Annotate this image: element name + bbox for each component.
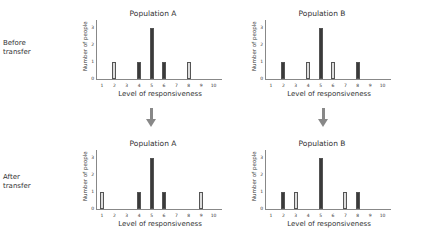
x-tick-label: 7 [172,83,180,88]
chart-title: Population B [247,9,397,18]
x-tick-label: 6 [160,83,168,88]
x-tick-label: 1 [267,83,275,88]
bar-light-4 [306,62,310,79]
chart-before-population-a: Population A012312345678910Level of resp… [78,9,228,109]
bar-dark-8 [356,192,360,209]
y-tick-label: 3 [258,25,263,30]
bar-light-1 [100,192,104,209]
x-tick-label: 1 [267,213,275,218]
x-axis-line [96,79,222,80]
x-tick-label: 5 [148,83,156,88]
x-tick-label: 3 [292,213,300,218]
x-tick-label: 10 [379,213,387,218]
x-tick-label: 3 [292,83,300,88]
row-label-before-line1: Before [3,39,31,48]
bar-dark-5 [150,158,154,209]
y-tick-label: 2 [258,42,263,47]
y-tick-label: 3 [258,155,263,160]
y-axis-line [96,20,97,80]
x-tick-label: 9 [197,213,205,218]
y-tick-label: 0 [89,206,94,211]
x-axis-label: Level of responsiveness [259,90,399,98]
y-tick-label: 3 [89,25,94,30]
bar-dark-4 [137,62,141,79]
x-tick-label: 2 [110,83,118,88]
x-tick-label: 10 [210,83,218,88]
y-axis-line [265,20,266,80]
x-tick-label: 2 [279,213,287,218]
x-tick-label: 5 [317,83,325,88]
x-tick-label: 6 [329,213,337,218]
bar-light-2 [112,62,116,79]
plot-area: 012312345678910 [96,150,222,210]
y-axis-label: Number of people [82,21,88,71]
x-tick-label: 5 [317,213,325,218]
y-tick-label: 2 [89,42,94,47]
y-tick-label: 1 [258,189,263,194]
x-axis-label: Level of responsiveness [90,90,230,98]
chart-before-population-b: Population B012312345678910Level of resp… [247,9,397,109]
bar-dark-2 [281,62,285,79]
y-axis-line [265,150,266,210]
x-axis-line [96,209,222,210]
x-tick-label: 10 [379,83,387,88]
plot-area: 012312345678910 [265,150,391,210]
bar-light-9 [199,192,203,209]
x-tick-label: 8 [185,213,193,218]
bar-light-7 [343,192,347,209]
y-axis-label: Number of people [251,151,257,201]
y-tick-label: 3 [89,155,94,160]
x-axis-label: Level of responsiveness [259,220,399,228]
row-label-after-line2: transfer [3,182,31,191]
y-tick-label: 0 [89,76,94,81]
bar-dark-8 [356,62,360,79]
x-tick-label: 9 [366,83,374,88]
chart-title: Population B [247,139,397,148]
x-tick-label: 4 [135,83,143,88]
row-label-before: Before transfer [3,39,31,57]
bar-dark-4 [137,192,141,209]
bar-dark-2 [281,192,285,209]
x-tick-label: 4 [304,83,312,88]
x-tick-label: 2 [110,213,118,218]
x-axis-line [265,79,391,80]
x-tick-label: 7 [341,213,349,218]
x-tick-label: 2 [279,83,287,88]
y-axis-label: Number of people [82,151,88,201]
bar-dark-5 [319,158,323,209]
x-tick-label: 4 [304,213,312,218]
bar-dark-5 [319,28,323,79]
y-tick-label: 0 [258,206,263,211]
bar-light-6 [331,62,335,79]
bar-light-8 [187,62,191,79]
chart-title: Population A [78,139,228,148]
bar-light-3 [294,192,298,209]
y-axis-label: Number of people [251,21,257,71]
chart-after-population-a: Population A012312345678910Level of resp… [78,139,228,239]
x-tick-label: 9 [197,83,205,88]
y-tick-label: 2 [258,172,263,177]
x-tick-label: 10 [210,213,218,218]
x-tick-label: 9 [366,213,374,218]
chart-title: Population A [78,9,228,18]
x-tick-label: 3 [123,83,131,88]
bar-dark-5 [150,28,154,79]
y-tick-label: 2 [89,172,94,177]
x-tick-label: 6 [160,213,168,218]
x-tick-label: 1 [98,213,106,218]
y-tick-label: 1 [258,59,263,64]
x-tick-label: 7 [341,83,349,88]
row-label-after-line1: After [3,173,31,182]
row-label-before-line2: transfer [3,48,31,57]
chart-after-population-b: Population B012312345678910Level of resp… [247,139,397,239]
x-tick-label: 8 [354,213,362,218]
plot-area: 012312345678910 [265,20,391,80]
x-tick-label: 5 [148,213,156,218]
row-label-after: After transfer [3,173,31,191]
x-axis-label: Level of responsiveness [90,220,230,228]
x-tick-label: 3 [123,213,131,218]
down-arrow-icon-a [146,108,156,128]
y-tick-label: 1 [89,59,94,64]
down-arrow-icon-b [318,108,328,128]
y-tick-label: 0 [258,76,263,81]
